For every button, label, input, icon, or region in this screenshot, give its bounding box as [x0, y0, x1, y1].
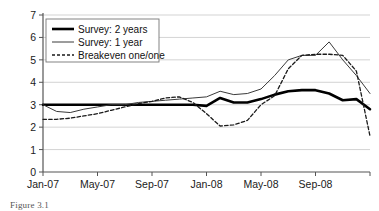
xtick-label-4: May-08 [243, 178, 278, 190]
xtick-label-1: May-07 [80, 178, 115, 190]
series-line-0 [43, 90, 370, 109]
ytick-label-1: 1 [30, 144, 36, 156]
xtick-label-3: Jan-08 [190, 178, 222, 190]
legend-label-0: Survey: 2 years [78, 24, 147, 35]
ytick-label-3: 3 [30, 99, 36, 111]
ytick-label-4: 4 [30, 76, 36, 88]
legend-label-1: Survey: 1 year [78, 37, 143, 48]
ytick-label-7: 7 [30, 9, 36, 21]
series-line-2 [43, 54, 370, 136]
line-chart: 01234567Jan-07May-07Sep-07Jan-08May-08Se… [0, 0, 379, 211]
figure-caption: Figure 3.1 [10, 200, 49, 211]
ytick-label-6: 6 [30, 31, 36, 43]
xtick-label-5: Sep-08 [299, 178, 333, 190]
xtick-label-0: Jan-07 [27, 178, 59, 190]
xtick-label-2: Sep-07 [135, 178, 169, 190]
legend-label-2: Breakeven one/one [78, 50, 165, 61]
ytick-label-2: 2 [30, 121, 36, 133]
figure-container: 01234567Jan-07May-07Sep-07Jan-08May-08Se… [0, 0, 379, 211]
ytick-label-5: 5 [30, 54, 36, 66]
ytick-label-0: 0 [30, 166, 36, 178]
